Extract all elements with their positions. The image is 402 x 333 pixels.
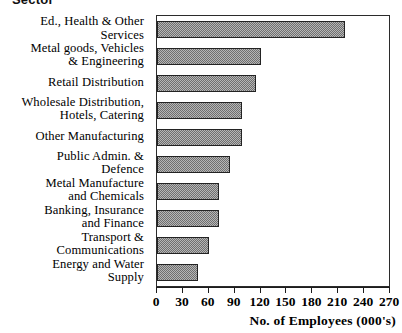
x-tick-label: 0	[153, 294, 160, 309]
bar	[157, 102, 242, 119]
x-tick-label: 150	[275, 294, 295, 309]
x-tick	[234, 287, 235, 293]
category-label: Metal Manufacture and Chemicals	[0, 177, 144, 204]
category-label: Transport & Communications	[0, 231, 144, 258]
bar-chart: Sector Ed., Health & Other ServicesMetal…	[0, 0, 402, 333]
x-tick-label: 120	[249, 294, 269, 309]
x-tick	[182, 287, 183, 293]
x-tick-label: 180	[301, 294, 321, 309]
x-tick	[208, 287, 209, 293]
category-label: Ed., Health & Other Services	[0, 15, 144, 42]
x-tick	[389, 287, 390, 293]
category-label: Energy and Water Supply	[0, 258, 144, 285]
category-label: Wholesale Distribution, Hotels, Catering	[0, 96, 144, 123]
category-label: Retail Distribution	[0, 76, 144, 90]
bar	[157, 264, 198, 281]
x-tick-label: 90	[227, 294, 241, 309]
category-label: Metal goods, Vehicles & Engineering	[0, 42, 144, 69]
bar	[157, 129, 242, 146]
category-label: Public Admin. & Defence	[0, 150, 144, 177]
x-tick-labels: 0306090120150180210240270	[0, 294, 402, 310]
x-tick-label: 240	[353, 294, 373, 309]
x-tick	[156, 287, 157, 293]
category-label: Other Manufacturing	[0, 130, 144, 144]
x-tick	[363, 287, 364, 293]
x-tick	[260, 287, 261, 293]
category-label: Banking, Insurance and Finance	[0, 204, 144, 231]
x-tick	[285, 287, 286, 293]
bar	[157, 156, 230, 173]
x-axis-line	[156, 287, 390, 288]
bar	[157, 75, 256, 92]
bar	[157, 48, 261, 65]
x-tick	[311, 287, 312, 293]
bar	[157, 237, 209, 254]
x-tick-label: 60	[201, 294, 215, 309]
bar	[157, 210, 219, 227]
category-axis-labels: Ed., Health & Other ServicesMetal goods,…	[0, 15, 150, 287]
x-tick-label: 210	[327, 294, 347, 309]
x-tick	[337, 287, 338, 293]
chart-heading: Sector	[12, 0, 54, 6]
bars-layer	[157, 16, 390, 286]
x-tick-label: 270	[379, 294, 399, 309]
bar	[157, 183, 219, 200]
x-axis-title: No. of Employees (000's)	[0, 313, 396, 329]
x-tick-label: 30	[175, 294, 189, 309]
bar	[157, 21, 345, 38]
